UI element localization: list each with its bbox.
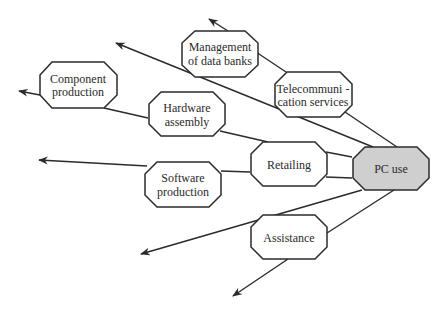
node-pc-use-label: PC use — [374, 162, 408, 176]
node-software-line2: production — [157, 185, 209, 199]
arrow-management-out — [209, 19, 228, 31]
pc-use-network-diagram: Management of data banks Telecommuni - c… — [0, 0, 445, 311]
node-software: Software production — [145, 162, 221, 207]
edge-pcuse-assistance — [327, 190, 394, 233]
edge-retailing-software — [221, 171, 250, 172]
arrow-component-out — [19, 91, 40, 95]
arrow-software-out — [39, 160, 147, 166]
edge-pcuse-retailing-bottom — [326, 177, 352, 178]
node-telecom-line1: Telecommuni - — [277, 82, 350, 96]
node-software-line1: Software — [161, 171, 204, 185]
edge-telecom-management — [256, 52, 286, 72]
node-telecom: Telecommuni - cation services — [275, 72, 352, 117]
node-management-line2: of data banks — [188, 54, 252, 68]
node-management-line1: Management — [189, 40, 252, 54]
node-hardware-line2: assembly — [165, 115, 210, 129]
node-hardware-line1: Hardware — [163, 101, 210, 115]
edge-hardware-component — [104, 108, 148, 118]
node-pc-use: PC use — [353, 147, 429, 190]
node-assistance: Assistance — [251, 215, 327, 259]
node-retailing: Retailing — [251, 142, 327, 186]
edge-pcuse-retailing-top — [326, 152, 352, 157]
node-telecom-line2: cation services — [278, 95, 349, 109]
node-assistance-label: Assistance — [263, 231, 314, 245]
arrow-assistance-out — [233, 259, 288, 296]
edge-retailing-hardware — [220, 131, 268, 142]
node-hardware: Hardware assembly — [149, 92, 225, 136]
edge-pcuse-telecom — [345, 112, 397, 147]
node-component: Component production — [40, 62, 117, 108]
node-retailing-line1: Retailing — [267, 158, 311, 172]
node-component-line1: Component — [50, 72, 107, 86]
node-management: Management of data banks — [182, 31, 258, 77]
node-component-line2: production — [52, 85, 104, 99]
